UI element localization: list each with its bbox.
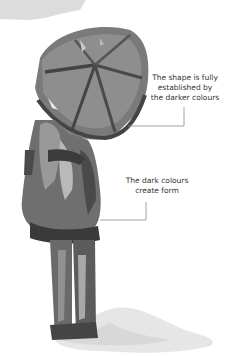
annotation-shape-established: The shape is fully established by the da… bbox=[150, 73, 220, 103]
sky-wash bbox=[0, 0, 86, 20]
annotation-1-line-1: The shape is fully bbox=[150, 73, 220, 83]
watercolour-illustration bbox=[0, 0, 242, 356]
figure bbox=[22, 120, 101, 340]
annotation-2-line-2: create form bbox=[122, 186, 192, 196]
annotation-1-line-3: the darker colours bbox=[150, 93, 220, 103]
leader-line-2 bbox=[100, 202, 146, 220]
annotation-dark-colours-form: The dark colours create form bbox=[122, 176, 192, 196]
annotation-1-line-2: established by bbox=[150, 83, 220, 93]
annotation-2-line-1: The dark colours bbox=[122, 176, 192, 186]
